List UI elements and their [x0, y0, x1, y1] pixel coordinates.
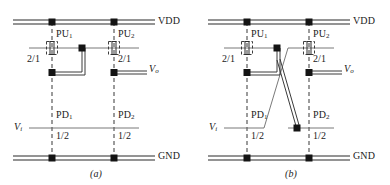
panel-a-gnd-label: GND — [158, 151, 180, 161]
panel-b-output-wire — [309, 71, 342, 74]
panel-b-vi-label: Vi — [209, 122, 217, 133]
panel-b-gnd-rail — [208, 156, 350, 160]
panel-b-pd2-ratio: 1/2 — [313, 131, 326, 141]
panel-a-vdd-label: VDD — [158, 16, 180, 26]
panel-a-pd2-label: PD2 — [118, 110, 135, 121]
panel-a-pd1-label: PD1 — [56, 110, 73, 121]
panel-b-gnd-label: GND — [353, 151, 375, 161]
panel-b-vdd-rail — [208, 20, 350, 24]
panel-a-pd2-ratio: 1/2 — [118, 131, 131, 141]
panel-a-pu1-ratio: 2/1 — [27, 54, 40, 64]
panel-b-pu1-ratio: 2/1 — [222, 54, 235, 64]
panel-b-pd1-label: PD1 — [251, 110, 268, 121]
panel-a-pu2-ratio: 2/1 — [118, 54, 131, 64]
panel-b-vdd-label: VDD — [353, 16, 375, 26]
panel-a-pd1-ratio: 1/2 — [56, 131, 69, 141]
panel-a-crosscouple-wire — [52, 48, 85, 75]
panel-a-output-wire — [114, 71, 147, 74]
panel-b-pd1-ratio: 1/2 — [251, 131, 264, 141]
figure-canvas: VDD GND PU1 PU2 2/1 2/1 PD1 PD2 1/2 1/2 … — [0, 0, 390, 185]
panel-a-gnd-rail — [13, 156, 155, 160]
panel-a-pu2-label: PU2 — [118, 29, 135, 40]
panel-b-caption: (b) — [285, 169, 297, 179]
panel-a-vdd-rail — [13, 20, 155, 24]
panel-b-pd2-label: PD2 — [313, 110, 330, 121]
panel-b-pu2-ratio: 2/1 — [313, 54, 326, 64]
panel-a-vi-label: Vi — [14, 122, 22, 133]
panel-a-vo-label: Vo — [149, 64, 159, 75]
panel-b-pu1-label: PU1 — [251, 29, 268, 40]
panel-a-pu1-label: PU1 — [56, 29, 73, 40]
panel-b-vo-label: Vo — [344, 64, 354, 75]
panel-a-caption: (a) — [90, 169, 102, 179]
panel-b-pu2-label: PU2 — [313, 29, 330, 40]
